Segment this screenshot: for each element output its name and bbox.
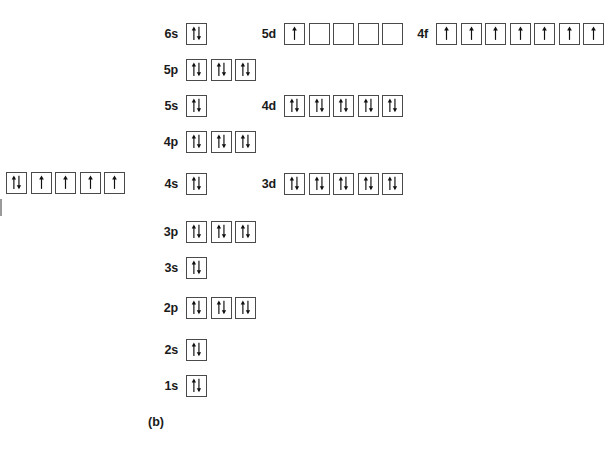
partial-row-boxes [6, 172, 125, 194]
orbital-box-updown [186, 95, 207, 117]
subshell-boxes-4d [284, 95, 403, 117]
subshell-boxes-3p [186, 221, 256, 243]
subshell-label-5d: 5d [250, 22, 276, 46]
subshell-label-4p: 4p [152, 130, 178, 154]
orbital-box-empty [382, 23, 403, 45]
subshell-3p: 3p [152, 220, 256, 244]
left-edge-line-fragment [0, 199, 2, 216]
subshell-label-4s: 4s [152, 172, 178, 196]
orbital-box-up [284, 23, 305, 45]
orbital-box-up [31, 172, 52, 194]
subshell-6s: 6s [152, 22, 207, 46]
left-partial-orbital-row [6, 172, 125, 194]
orbital-box-up [80, 172, 101, 194]
subshell-label-4d: 4d [250, 94, 276, 118]
orbital-box-up [436, 23, 457, 45]
orbital-box-updown [211, 59, 232, 81]
subshell-label-3s: 3s [152, 256, 178, 280]
orbital-box-updown [235, 221, 256, 243]
subshell-boxes-4p [186, 131, 256, 153]
subshell-boxes-3s [186, 257, 207, 279]
subshell-4p: 4p [152, 130, 256, 154]
subshell-4f: 4f [402, 22, 604, 46]
orbital-box-updown [309, 173, 330, 195]
figure-caption: (b) [148, 415, 164, 429]
subshell-boxes-5p [186, 59, 256, 81]
orbital-box-up [104, 172, 125, 194]
subshell-label-3p: 3p [152, 220, 178, 244]
subshell-boxes-6s [186, 23, 207, 45]
orbital-box-updown [333, 95, 354, 117]
subshell-label-6s: 6s [152, 22, 178, 46]
orbital-box-updown [186, 297, 207, 319]
subshell-boxes-4s [186, 173, 207, 195]
subshell-5p: 5p [152, 58, 256, 82]
orbital-box-updown [186, 59, 207, 81]
subshell-label-3d: 3d [250, 172, 276, 196]
orbital-box-updown [6, 172, 27, 194]
subshell-label-1s: 1s [152, 374, 178, 398]
orbital-box-updown [211, 131, 232, 153]
subshell-boxes-2p [186, 297, 256, 319]
orbital-box-empty [309, 23, 330, 45]
subshell-2p: 2p [152, 296, 256, 320]
subshell-4d: 4d [250, 94, 403, 118]
subshell-boxes-4f [436, 23, 604, 45]
subshell-5d: 5d [250, 22, 403, 46]
orbital-box-empty [358, 23, 379, 45]
subshell-label-2s: 2s [152, 338, 178, 362]
subshell-1s: 1s [152, 374, 207, 398]
orbital-box-updown [358, 95, 379, 117]
subshell-label-2p: 2p [152, 296, 178, 320]
subshell-boxes-1s [186, 375, 207, 397]
orbital-box-up [534, 23, 555, 45]
orbital-box-up [461, 23, 482, 45]
orbital-box-empty [333, 23, 354, 45]
orbital-box-updown [382, 95, 403, 117]
orbital-box-updown [235, 131, 256, 153]
subshell-label-5p: 5p [152, 58, 178, 82]
subshell-boxes-2s [186, 339, 207, 361]
orbital-diagram-figure: 6s5d4f5p5s4d4p4s3d3p3s2p2s1s (b) [0, 0, 610, 457]
subshell-5s: 5s [152, 94, 207, 118]
orbital-box-up [485, 23, 506, 45]
subshell-label-5s: 5s [152, 94, 178, 118]
orbital-box-updown [382, 173, 403, 195]
subshell-boxes-3d [284, 173, 403, 195]
orbital-box-up [510, 23, 531, 45]
orbital-box-up [55, 172, 76, 194]
subshell-boxes-5s [186, 95, 207, 117]
orbital-box-updown [358, 173, 379, 195]
subshell-2s: 2s [152, 338, 207, 362]
orbital-box-updown [235, 297, 256, 319]
orbital-box-updown [284, 173, 305, 195]
orbital-box-updown [186, 339, 207, 361]
orbital-box-updown [309, 95, 330, 117]
orbital-box-updown [211, 221, 232, 243]
orbital-box-updown [284, 95, 305, 117]
orbital-box-up [559, 23, 580, 45]
orbital-box-updown [211, 297, 232, 319]
orbital-box-up [583, 23, 604, 45]
orbital-box-updown [186, 257, 207, 279]
subshell-boxes-5d [284, 23, 403, 45]
orbital-box-updown [186, 221, 207, 243]
subshell-label-4f: 4f [402, 22, 428, 46]
subshell-3s: 3s [152, 256, 207, 280]
orbital-box-updown [186, 375, 207, 397]
subshell-3d: 3d [250, 172, 403, 196]
orbital-box-updown [186, 131, 207, 153]
subshell-4s: 4s [152, 172, 207, 196]
orbital-box-updown [186, 23, 207, 45]
orbital-box-updown [235, 59, 256, 81]
orbital-box-updown [333, 173, 354, 195]
orbital-box-updown [186, 173, 207, 195]
